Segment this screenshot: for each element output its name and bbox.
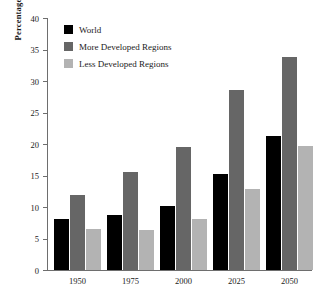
y-axis-tick-label: 20 — [31, 140, 40, 150]
legend-swatch-icon — [64, 59, 73, 68]
x-axis-tick-label: 2000 — [160, 276, 208, 286]
legend-label: World — [79, 25, 101, 35]
legend-item: More Developed Regions — [64, 39, 171, 54]
bar — [107, 215, 122, 270]
y-axis-tick: 20 — [43, 144, 47, 145]
x-axis-tick-label: 2025 — [213, 276, 261, 286]
legend-label: Less Developed Regions — [79, 59, 168, 69]
bar-chart: Percentage 0510152025303540 195019752000… — [0, 0, 320, 297]
y-axis-tick: 35 — [43, 50, 47, 51]
y-axis-tick: 30 — [43, 81, 47, 82]
legend-item: Less Developed Regions — [64, 56, 171, 71]
legend-swatch-icon — [64, 42, 73, 51]
bar — [245, 189, 260, 270]
bar — [139, 230, 154, 270]
legend-swatch-icon — [64, 25, 73, 34]
bar — [266, 136, 281, 270]
chart-legend: WorldMore Developed RegionsLess Develope… — [64, 22, 171, 73]
legend-label: More Developed Regions — [79, 42, 171, 52]
y-axis-tick: 5 — [43, 239, 47, 240]
bar — [298, 146, 313, 270]
y-axis-line — [47, 18, 48, 271]
y-axis-tick-label: 35 — [31, 45, 40, 55]
bar-group — [266, 18, 313, 270]
y-axis-tick-label: 15 — [31, 171, 40, 181]
y-axis-tick-label: 30 — [31, 77, 40, 87]
y-axis-tick: 25 — [43, 113, 47, 114]
y-axis-tick-label: 25 — [31, 108, 40, 118]
bar — [70, 195, 85, 270]
bar — [192, 219, 207, 270]
bar — [160, 206, 175, 270]
y-axis-tick: 0 — [43, 270, 47, 271]
x-axis-tick-label: 1950 — [54, 276, 102, 286]
bar — [123, 172, 138, 270]
bar — [54, 219, 69, 270]
y-axis-tick: 40 — [43, 18, 47, 19]
y-axis-tick-label: 5 — [35, 234, 39, 244]
y-axis-title: Percentage — [8, 0, 28, 168]
bar — [213, 174, 228, 270]
x-axis-tick-label: 2050 — [266, 276, 314, 286]
y-axis-tick: 10 — [43, 207, 47, 208]
x-axis-line — [47, 270, 312, 271]
legend-item: World — [64, 22, 171, 37]
bar — [229, 90, 244, 270]
y-axis-tick-label: 40 — [31, 14, 40, 24]
bar — [86, 229, 101, 270]
bar — [282, 57, 297, 270]
x-axis-tick-label: 1975 — [107, 276, 155, 286]
bar-group — [213, 18, 260, 270]
y-axis-tick: 15 — [43, 176, 47, 177]
y-axis-tick-label: 0 — [35, 266, 39, 276]
y-axis-tick-label: 10 — [31, 203, 40, 213]
bar — [176, 147, 191, 270]
